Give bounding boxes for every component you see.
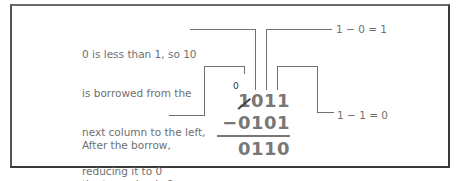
connector-col4-left: [277, 66, 278, 90]
borrow-note-line-2: is borrowed from the: [82, 87, 205, 100]
result-rule: [217, 135, 290, 137]
connector-borrow-h: [190, 29, 256, 30]
minuend: 1011: [226, 91, 290, 111]
connector-borrow-v: [255, 29, 256, 90]
connector-col4-h: [317, 112, 334, 113]
connector-col1-h: [169, 115, 205, 116]
result: 0110: [226, 139, 290, 159]
connector-col4-top: [277, 66, 318, 67]
connector-col1-top: [204, 66, 244, 67]
connector-col3-v: [266, 29, 267, 90]
connector-col1-right: [244, 66, 245, 74]
after-borrow-line-2: the top value is 0: [82, 178, 174, 181]
after-borrow-note: After the borrow, the top value is 0 0 −…: [82, 113, 174, 181]
connector-col3-h: [266, 29, 332, 30]
connector-col4-right: [317, 66, 318, 113]
one-minus-one-note: 1 − 1 = 0: [337, 109, 388, 122]
after-borrow-line-1: After the borrow,: [82, 139, 174, 152]
borrow-note-line-1: 0 is less than 1, so 10: [82, 48, 205, 61]
subtrahend: −0101: [216, 113, 290, 133]
one-minus-zero-note: 1 − 0 = 1: [336, 23, 387, 36]
connector-col1-left: [204, 66, 205, 116]
